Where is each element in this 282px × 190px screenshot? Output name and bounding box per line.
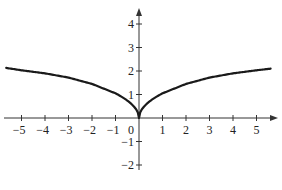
x-tick-label: 4 bbox=[230, 123, 236, 137]
y-tick-label: 1 bbox=[128, 88, 134, 102]
x-tick-label: 3 bbox=[207, 123, 213, 137]
x-tick-label: 2 bbox=[183, 123, 189, 137]
x-tick-label: 1 bbox=[160, 123, 166, 137]
y-tick-label: −1 bbox=[121, 135, 134, 149]
axes bbox=[4, 8, 278, 170]
x-tick-label: −1 bbox=[107, 123, 120, 137]
y-tick-label: 3 bbox=[128, 41, 134, 55]
y-tick-label: 2 bbox=[128, 64, 134, 78]
x-tick-label: −3 bbox=[60, 123, 73, 137]
y-tick-label: 4 bbox=[128, 17, 134, 31]
x-axis-arrow-icon bbox=[270, 115, 278, 121]
chart: −5−4−3−2−1012345 −2−11234 bbox=[0, 0, 282, 190]
y-axis-arrow-icon bbox=[136, 8, 142, 16]
x-tick-label: 5 bbox=[254, 123, 260, 137]
x-tick-label: −4 bbox=[36, 123, 49, 137]
x-tick-label: −5 bbox=[13, 123, 26, 137]
data-curve bbox=[6, 68, 270, 118]
y-tick-label: −2 bbox=[121, 158, 134, 172]
x-tick-label: −2 bbox=[83, 123, 96, 137]
